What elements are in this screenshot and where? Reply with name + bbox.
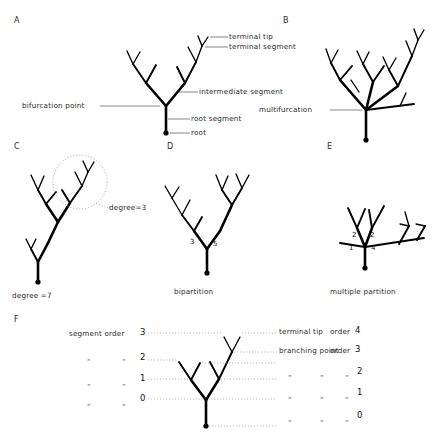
panel-b-branch-1	[340, 80, 366, 110]
panel-e-seg	[369, 210, 372, 228]
panel-e-seg	[372, 206, 384, 228]
panel-b-seg	[418, 30, 424, 40]
legend-left-value-3: 3	[140, 327, 145, 337]
panel-b-seg	[389, 58, 396, 70]
legend-right-ditto-r2c3: „	[345, 392, 349, 400]
legend-right-value-3: 3	[355, 344, 360, 354]
legend-right-ditto-r3c3: „	[345, 415, 349, 423]
panel-f-tree	[148, 333, 277, 429]
panel-c-seg	[88, 162, 94, 172]
legend-right-ditto-r3c2: „	[320, 415, 324, 423]
panel-f-order1-left	[191, 380, 206, 400]
label-degree-3: degree=3	[109, 203, 146, 212]
panel-a-left-branch	[146, 83, 166, 106]
panel-a-seg	[133, 64, 146, 83]
panel-c-degree-leader	[96, 203, 108, 208]
panel-b-seg	[406, 41, 412, 56]
panel-b-seg	[331, 50, 338, 63]
panel-c-tree	[26, 155, 108, 285]
panel-e-seg	[405, 212, 409, 226]
panel-c-seg	[31, 239, 36, 249]
legend-left-ditto-r3c2: „	[122, 399, 126, 407]
legend-left-ditto-r2c1: „	[87, 379, 91, 387]
panel-c-seg	[82, 172, 88, 186]
panel-a-seg	[146, 65, 156, 83]
legend-right-ditto-r2c1: „	[288, 392, 292, 400]
panel-c-seg	[38, 243, 48, 262]
panel-b-seg	[340, 66, 352, 80]
panel-d-seg	[172, 187, 179, 198]
panel-c-seg	[31, 249, 38, 262]
panel-e-seg	[400, 224, 409, 226]
panel-a-seg	[198, 36, 202, 46]
panel-a-terminal-segment	[196, 46, 202, 62]
label-root-segment: root segment	[191, 114, 242, 123]
legend-left-ditto-r2c2: „	[122, 379, 126, 387]
panel-f-seg	[219, 352, 232, 379]
legend-right-value-2: 2	[357, 366, 362, 376]
panel-d-seg	[242, 175, 249, 188]
panel-d-seg	[236, 174, 242, 188]
panel-c-seg	[70, 186, 82, 203]
label-multifurcation: multifurcation	[259, 105, 312, 114]
figure-linework	[0, 0, 448, 433]
panel-c-seg	[46, 204, 58, 222]
panel-d-seg	[165, 186, 172, 198]
panel-c-seg	[31, 175, 38, 190]
panel-a-terminal-tip-seg	[202, 37, 208, 46]
panel-b-seg	[363, 52, 369, 64]
panel-b-seg	[331, 63, 340, 80]
label-terminal-tip: terminal tip	[229, 32, 273, 41]
label-root: root	[191, 128, 206, 137]
panel-b-seg	[326, 49, 331, 63]
panel-b-seg	[373, 66, 384, 82]
panel-e-count-2b: 2	[370, 231, 374, 239]
legend-right-ditto-r1c3: „	[345, 370, 349, 378]
panel-d-left-count: 3	[190, 238, 194, 246]
label-terminal-segment: terminal segment	[229, 42, 296, 51]
panel-a-seg	[188, 47, 196, 62]
panel-d-seg	[182, 200, 190, 215]
panel-f-seg	[232, 337, 240, 352]
panel-b-seg	[412, 40, 418, 56]
legend-left-value-1: 1	[140, 373, 145, 383]
panel-e-count-2a: 2	[352, 231, 356, 239]
panel-a-seg	[127, 51, 133, 64]
panel-c-seg	[38, 176, 44, 190]
panel-b-seg	[357, 51, 363, 64]
panel-b-seg	[389, 70, 398, 86]
panel-b-seg	[414, 29, 418, 40]
label-bifurcation-point: bifurcation point	[22, 101, 85, 110]
panel-d-seg	[172, 198, 182, 215]
panel-d-seg	[220, 205, 232, 231]
legend-right-ditto-r1c2: „	[320, 370, 324, 378]
panel-c-seg	[26, 239, 31, 249]
panel-d-right-count: 5	[213, 240, 217, 248]
panel-b-seg	[363, 64, 373, 82]
panel-d-seg	[222, 190, 232, 205]
panel-a-seg	[133, 52, 140, 64]
panel-a-intermediate-segment	[166, 83, 185, 106]
panel-d-seg	[182, 215, 194, 231]
panel-e-partition-2	[357, 228, 365, 247]
figure-canvas: A B C D E F	[0, 0, 448, 433]
panel-d-tree	[165, 174, 249, 276]
panel-d-seg	[194, 217, 202, 231]
legend-right-ditto-r2c2: „	[320, 392, 324, 400]
label-intermediate-segment: intermediate segment	[199, 87, 283, 96]
panel-b-seg	[383, 57, 389, 70]
panel-b-tree	[326, 29, 424, 143]
panel-b-seg	[398, 56, 412, 86]
panel-d-seg	[232, 188, 242, 205]
legend-left-ditto-r1c1: „	[87, 354, 91, 362]
panel-d-seg	[222, 176, 228, 190]
legend-left-header: segment order	[69, 329, 125, 338]
caption-multiple-partition: multiple partition	[330, 287, 396, 296]
panel-b-seg	[400, 93, 406, 106]
label-degree-7: degree =7	[12, 291, 52, 300]
panel-f-seg	[191, 363, 200, 380]
panel-a-seg	[177, 67, 185, 83]
panel-f-seg	[179, 362, 191, 380]
panel-c-seg	[46, 192, 56, 204]
legend-left-value-0: 0	[140, 393, 145, 403]
